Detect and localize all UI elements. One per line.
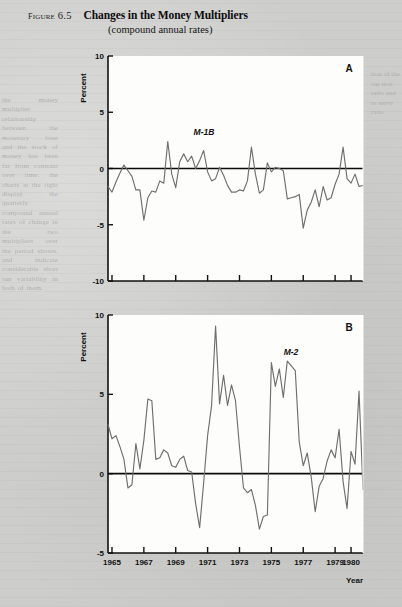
y-axis-title: Percent: [79, 332, 88, 362]
x-tick-label: 1967: [135, 558, 153, 567]
x-tick-label: 1973: [231, 558, 249, 567]
y-tick-label: 10: [95, 52, 104, 61]
series-label: M-2: [284, 347, 299, 357]
y-axis-title: Percent: [79, 73, 88, 103]
chart-panel-a: 1050-5-10PercentAM-1B: [0, 46, 402, 296]
x-tick-label: 1980: [342, 558, 360, 567]
x-axis-title: Year: [346, 576, 363, 585]
chart-b-canvas: 1050-51965196719691971197319751977197919…: [0, 303, 402, 607]
x-tick-label: 1975: [262, 558, 280, 567]
y-tick-label: -5: [97, 221, 105, 230]
figure-caption: Figure 6.5 Changes in the Money Multipli…: [28, 8, 358, 35]
panel-letter: A: [345, 63, 352, 74]
chart-panel-b: 1050-51965196719691971197319751977197919…: [0, 303, 402, 607]
y-tick-label: -5: [97, 549, 105, 558]
x-tick-label: 1971: [199, 558, 217, 567]
chart-a-canvas: 1050-5-10PercentAM-1B: [0, 46, 402, 296]
plot-area: [108, 315, 363, 553]
panel-letter: B: [345, 322, 352, 333]
figure-title: Changes in the Money Multipliers: [84, 9, 248, 21]
series-label: M-1B: [194, 127, 215, 137]
y-tick-label: 5: [100, 108, 105, 117]
x-tick-label: 1965: [103, 558, 121, 567]
y-tick-label: 0: [100, 165, 105, 174]
y-tick-label: -10: [92, 277, 104, 286]
figure-number: Figure 6.5: [28, 8, 72, 23]
x-tick-label: 1969: [167, 558, 185, 567]
x-tick-label: 1977: [294, 558, 312, 567]
y-tick-label: 0: [100, 470, 105, 479]
y-tick-label: 5: [100, 390, 105, 399]
figure-subtitle: (compound annual rates): [108, 24, 358, 35]
y-tick-label: 10: [95, 311, 104, 320]
